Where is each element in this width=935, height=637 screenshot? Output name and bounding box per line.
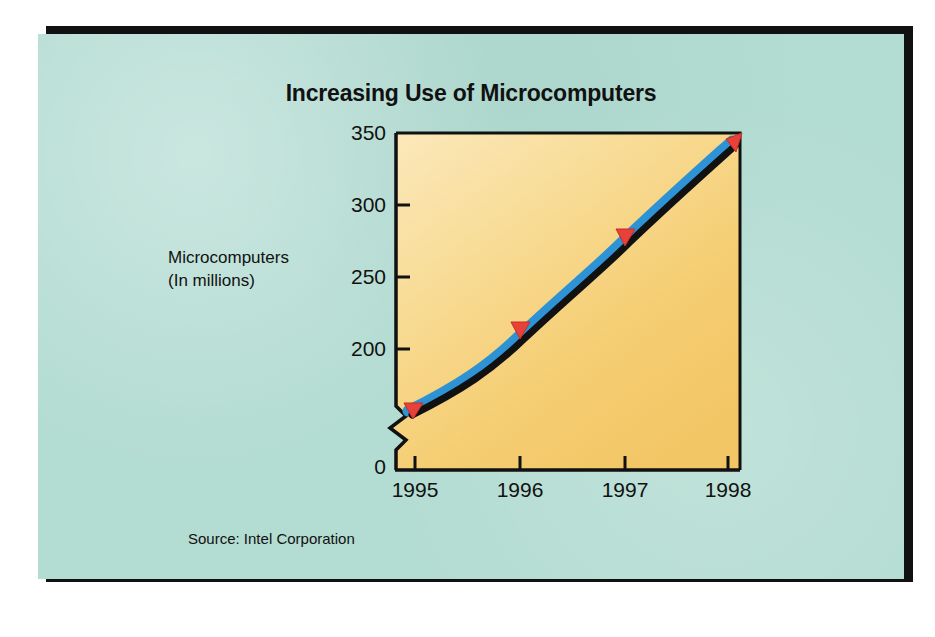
y-tick-label-350: 350 bbox=[316, 121, 386, 145]
x-tick-label-1995: 1995 bbox=[375, 478, 455, 502]
chart-card: Increasing Use of Microcomputers Microco… bbox=[38, 34, 904, 579]
y-tick-label-0: 0 bbox=[316, 455, 386, 479]
chart-page: Increasing Use of Microcomputers Microco… bbox=[0, 0, 935, 637]
x-tick-label-1997: 1997 bbox=[585, 478, 665, 502]
chart-title: Increasing Use of Microcomputers bbox=[38, 80, 904, 107]
y-tick-label-200: 200 bbox=[316, 337, 386, 361]
plot-area bbox=[38, 34, 904, 579]
y-tick-label-250: 250 bbox=[316, 265, 386, 289]
y-tick-label-300: 300 bbox=[316, 193, 386, 217]
x-tick-label-1996: 1996 bbox=[480, 478, 560, 502]
x-tick-label-1998: 1998 bbox=[688, 478, 768, 502]
source-note: Source: Intel Corporation bbox=[188, 530, 355, 547]
